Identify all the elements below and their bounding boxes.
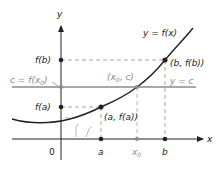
fa-label: f(a) xyxy=(35,102,51,112)
x0-tick-label: x0 xyxy=(131,147,141,158)
fa-point xyxy=(59,105,64,110)
c-equals-fx0-label: c = f(x0) xyxy=(10,75,48,86)
b-fb-label: (b, f(b)) xyxy=(170,58,204,68)
a-fa-point xyxy=(99,105,104,110)
x0-c-point xyxy=(135,85,139,89)
fb-label: f(b) xyxy=(35,55,51,65)
curve-label: y = f(x) xyxy=(142,28,177,38)
y-equals-c-label: y = c xyxy=(169,76,194,86)
c-point xyxy=(59,85,63,89)
b-fb-point xyxy=(163,58,168,63)
fb-point xyxy=(59,58,64,63)
a-fa-label: (a, f(a)) xyxy=(104,112,138,122)
x0-axis-point xyxy=(135,137,139,141)
b-tick-label: b xyxy=(162,147,168,157)
a-tick-label: a xyxy=(98,147,104,157)
c-pointer-arrow xyxy=(52,82,58,86)
b-axis-point xyxy=(163,137,168,142)
a-axis-point xyxy=(99,137,104,142)
small-marks xyxy=(65,118,92,137)
x0-c-label: (x0, c) xyxy=(107,72,134,83)
y-axis-label: y xyxy=(56,9,63,19)
ivt-diagram: y x 0 y = f(x) f(b) f(a) c = f(x0) (x0, … xyxy=(0,0,216,171)
x-axis-label: x xyxy=(206,134,213,144)
origin-label: 0 xyxy=(49,147,55,157)
